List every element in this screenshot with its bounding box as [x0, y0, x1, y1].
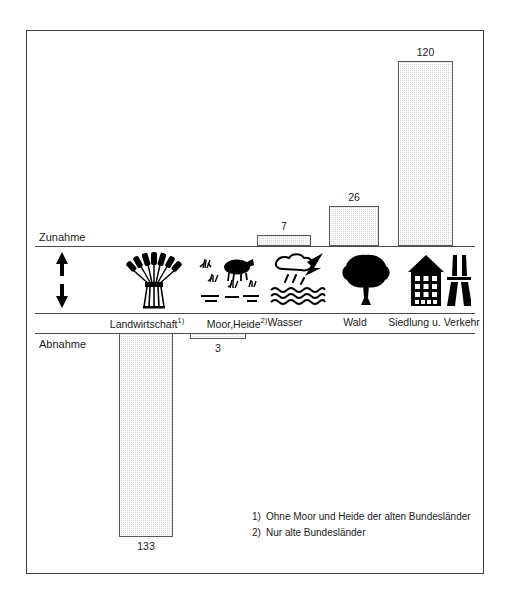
footnote-2: 2)Nur alte Bundesländer	[252, 525, 471, 541]
category-label-wald-text: Wald	[343, 316, 367, 328]
footnote-1: 1)Ohne Moor und Heide der alten Bundeslä…	[252, 509, 471, 525]
category-label-moor-heide-text: Moor,Heide	[207, 318, 261, 330]
category-label-wasser-text: Wasser	[267, 316, 302, 328]
bar-wasser	[257, 235, 311, 246]
bar-landwirtschaft	[119, 333, 173, 537]
wheat-sheaf-cell	[119, 247, 189, 313]
decrease-axis-label: Abnahme	[39, 338, 86, 350]
rain-cloud-water-cell	[267, 247, 329, 313]
category-labels-bottom-rule	[35, 333, 475, 334]
category-label-siedlung-verkehr: Siedlung u. Verkehr	[382, 316, 486, 328]
bar-wald	[329, 206, 379, 246]
bar-value-landwirtschaft: 133	[119, 540, 173, 552]
category-label-landwirtschaft-text: Landwirtschaft	[110, 318, 178, 330]
footnote-1-marker: 1)	[252, 509, 266, 525]
footnote-2-marker: 2)	[252, 525, 266, 541]
bar-value-wald: 26	[329, 191, 379, 203]
footnotes: 1)Ohne Moor und Heide der alten Bundeslä…	[252, 509, 471, 541]
plot-area: Zunahme Abnahme 7 26 120 133 3	[27, 31, 483, 573]
chart-frame: Zunahme Abnahme 7 26 120 133 3	[26, 30, 484, 574]
tree-cell	[338, 247, 394, 313]
wheat-sheaf-icon	[126, 251, 182, 309]
icon-band-bottom-rule	[35, 313, 475, 314]
bar-siedlung-verkehr	[398, 61, 453, 246]
up-down-arrow-cell	[47, 247, 77, 313]
increase-axis-label: Zunahme	[39, 231, 85, 243]
rain-cloud-water-icon	[269, 252, 327, 308]
footnote-2-text: Nur alte Bundesländer	[266, 527, 366, 538]
category-label-wasser: Wasser	[254, 316, 316, 328]
moor-heath-sheep-cell	[195, 247, 261, 313]
moor-heath-sheep-icon	[197, 254, 259, 306]
bar-value-moor-heide: 3	[190, 342, 246, 354]
bar-value-siedlung-verkehr: 120	[398, 46, 453, 58]
footnote-1-text: Ohne Moor und Heide der alten Bundesländ…	[266, 511, 471, 522]
bar-value-wasser: 7	[257, 220, 311, 232]
tree-icon	[340, 253, 392, 307]
category-label-wald: Wald	[327, 316, 383, 328]
category-label-siedlung-verkehr-text: Siedlung u. Verkehr	[388, 316, 480, 328]
icon-band	[35, 247, 475, 313]
building-highway-cell	[403, 247, 473, 313]
bar-moor-heide	[190, 333, 246, 339]
building-highway-icon	[405, 252, 471, 308]
up-down-arrow-icon	[54, 252, 70, 308]
